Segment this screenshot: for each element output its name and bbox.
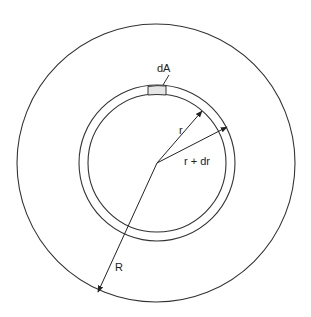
outer-circle xyxy=(17,24,295,302)
dA-label: dA xyxy=(157,62,171,74)
circular-area-diagram: dA r r + dr R xyxy=(0,0,311,317)
R-label: R xyxy=(115,261,123,273)
area-element-dA xyxy=(148,86,166,95)
r-label: r xyxy=(179,124,183,136)
r-plus-dr-label: r + dr xyxy=(184,155,210,167)
dA-leader-line xyxy=(163,75,169,85)
R-arrow xyxy=(98,163,157,292)
